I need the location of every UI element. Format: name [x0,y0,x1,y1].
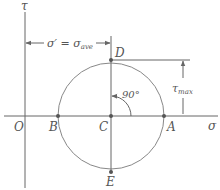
point-e-marker [109,170,113,174]
point-e-label: E [105,175,115,189]
point-d-label: D [114,46,125,60]
point-b-label: B [48,120,58,134]
sigma-axis-label: σ [208,119,217,133]
point-c-marker [109,114,113,118]
point-a-marker [162,114,166,118]
point-d-marker [109,58,113,62]
point-a-label: A [166,120,176,134]
point-c-label: C [99,120,108,134]
origin-label: O [14,120,24,134]
angle-90-label: 90° [122,89,140,100]
tau-axis-label: τ [21,0,28,13]
mohr-circle-diagram: τ σ O B A C D E σ′ = σave τmax 90° [0,0,220,190]
point-b-marker [56,114,60,118]
